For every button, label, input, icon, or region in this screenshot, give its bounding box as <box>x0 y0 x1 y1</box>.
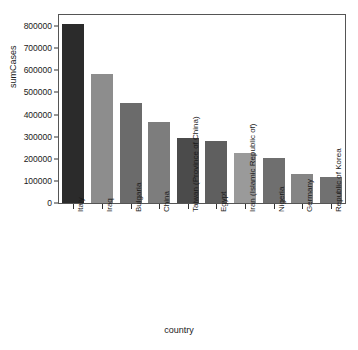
bars-container <box>59 15 345 203</box>
x-axis-tick-mark <box>159 204 160 209</box>
x-axis-category-label: Taiwan (Province of China) <box>191 116 200 212</box>
y-axis-tick-label: 800000 <box>24 21 52 31</box>
x-axis-category-label: China <box>162 191 171 212</box>
y-axis-tick-label: 300000 <box>24 132 52 142</box>
x-axis-tick-mark <box>274 204 275 209</box>
y-axis-tick-label: 500000 <box>24 87 52 97</box>
x-axis-category-label: Iraq <box>105 198 114 212</box>
x-axis-tick-mark <box>188 204 189 209</box>
bar <box>62 24 84 203</box>
y-axis-tick-label: 100000 <box>24 176 52 186</box>
y-axis-tick-label: 700000 <box>24 43 52 53</box>
bar-chart: sumCases 0100000200000300000400000500000… <box>0 0 358 350</box>
x-axis-tick-mark <box>216 204 217 209</box>
x-axis-tick-mark <box>73 204 74 209</box>
y-axis-tick-label: 0 <box>47 198 52 208</box>
y-axis-tick-label: 400000 <box>24 110 52 120</box>
x-axis-category-label: Germany <box>305 179 314 212</box>
x-axis-labels: ItalyIraqBulgariaChinaTaiwan (Province o… <box>59 210 345 320</box>
x-axis-category-label: Italy <box>76 197 85 212</box>
bar <box>91 74 113 203</box>
x-axis-tick-mark <box>102 204 103 209</box>
y-axis-tick-label: 200000 <box>24 154 52 164</box>
x-axis-category-label: Iran (Islamic Republic of) <box>248 124 257 212</box>
x-axis-tick-mark <box>302 204 303 209</box>
y-axis-tick-label: 600000 <box>24 65 52 75</box>
x-axis-tick-mark <box>131 204 132 209</box>
x-axis-title: country <box>0 325 358 335</box>
x-axis-category-label: Nigeria <box>277 187 286 212</box>
y-axis: 0100000200000300000400000500000600000700… <box>0 0 62 350</box>
x-axis-category-label: Bulgaria <box>134 183 143 212</box>
x-axis-tick-mark <box>331 204 332 209</box>
x-axis-category-label: Egypt <box>219 192 228 212</box>
x-axis-tick-mark <box>245 204 246 209</box>
x-axis-category-label: Republic of Korea <box>334 148 343 212</box>
